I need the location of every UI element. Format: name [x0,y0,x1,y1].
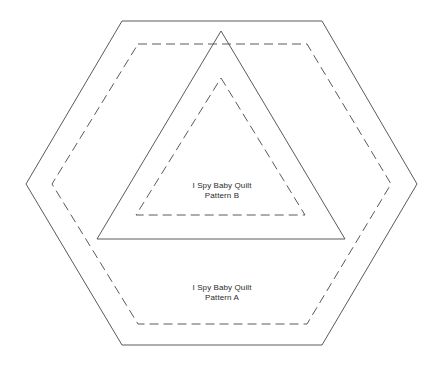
pattern-b-label-line-1: I Spy Baby Quilt [0,181,444,191]
pattern-b-label: I Spy Baby Quilt Pattern B [0,181,444,201]
pattern-a-label: I Spy Baby Quilt Pattern A [0,283,444,303]
pattern-a-label-line-1: I Spy Baby Quilt [0,283,444,293]
quilt-pattern-sheet: I Spy Baby Quilt Pattern B I Spy Baby Qu… [0,0,444,368]
outer-triangle-solid [97,31,345,239]
pattern-a-label-line-2: Pattern A [0,293,444,303]
pattern-b-label-line-2: Pattern B [0,191,444,201]
